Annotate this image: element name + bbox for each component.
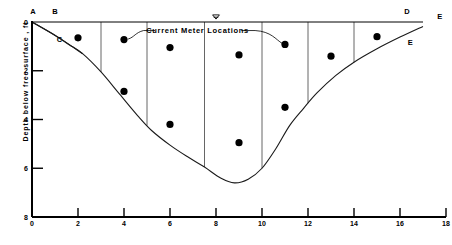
current-meter-point[interactable] — [235, 139, 242, 146]
label-point-e-lower: E — [408, 38, 413, 47]
current-meter-point[interactable] — [327, 53, 334, 60]
current-meter-point[interactable] — [120, 88, 127, 95]
current-meter-point[interactable] — [166, 44, 173, 51]
current-meter-point[interactable] — [281, 104, 288, 111]
current-meter-point[interactable] — [166, 121, 173, 128]
current-meter-point[interactable] — [74, 34, 81, 41]
label-point-e-right: E — [437, 12, 442, 21]
y-tick-label: 6 — [24, 165, 28, 172]
current-meter-point[interactable] — [235, 51, 242, 58]
label-point-d: D — [404, 7, 410, 16]
x-tick-label: 4 — [122, 220, 126, 227]
label-point-b: B — [52, 7, 58, 16]
current-meter-point[interactable] — [281, 41, 288, 48]
channel-bed-profile — [32, 22, 423, 183]
label-point-a: A — [30, 7, 36, 16]
current-meter-point[interactable] — [373, 33, 380, 40]
annotation-label: Current Meter Locations — [146, 26, 249, 35]
x-tick-label: 12 — [304, 220, 312, 227]
label-point-c: C — [57, 35, 63, 44]
y-tick-label: 8 — [24, 214, 28, 221]
x-tick-label: 14 — [350, 220, 358, 227]
x-tick-label: 8 — [214, 220, 218, 227]
x-tick-label: 10 — [258, 220, 266, 227]
x-tick-label: 0 — [30, 220, 34, 227]
x-tick-label: 6 — [168, 220, 172, 227]
y-axis-label: Depth below free surface , ft — [22, 12, 29, 152]
x-tick-label: 16 — [396, 220, 404, 227]
current-meter-point[interactable] — [120, 36, 127, 43]
x-tick-label: 18 — [442, 220, 450, 227]
figure-container: Depth below free surface , ft 0246802468… — [0, 0, 452, 245]
cross-section-plot: 02468024681012141618Current Meter Locati… — [0, 0, 452, 245]
x-tick-label: 2 — [76, 220, 80, 227]
